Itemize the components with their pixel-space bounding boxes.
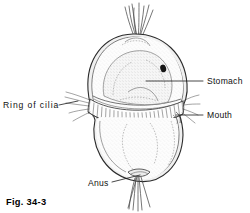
larva-diagram-canvas: Stomach Mouth Ring of cilia Anus Fig. 34… bbox=[0, 0, 250, 213]
figure-number: Fig. 34-3 bbox=[6, 197, 46, 207]
label-stomach: Stomach bbox=[207, 76, 243, 86]
label-ring-of-cilia: Ring of cilia bbox=[3, 100, 59, 110]
figure-34-3: Stomach Mouth Ring of cilia Anus Fig. 34… bbox=[0, 0, 250, 213]
posterior-cilia-tuft-icon bbox=[128, 177, 150, 211]
label-anus: Anus bbox=[88, 178, 109, 188]
label-mouth: Mouth bbox=[207, 110, 232, 120]
